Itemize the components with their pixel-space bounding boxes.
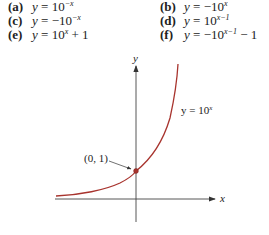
exponential-graph (0, 0, 269, 235)
point-0-1 (134, 169, 139, 174)
curve-label: y = 10x (181, 104, 212, 116)
curve-y-10-x (56, 64, 178, 196)
annotation-arrow (109, 161, 131, 169)
point-label: (0, 1) (84, 152, 108, 164)
y-axis-label: y (133, 52, 138, 64)
curve-label-base: y = 10 (181, 104, 209, 116)
curve-label-exponent: x (209, 104, 212, 112)
x-axis-label: x (220, 192, 225, 204)
